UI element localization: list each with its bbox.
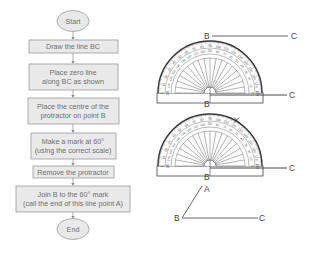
- end-terminal-label: End: [67, 225, 80, 234]
- arrowhead-icon: [71, 37, 74, 40]
- flow-step-text: protractor on point B: [40, 111, 105, 120]
- outer-scale-number: 90: [208, 117, 212, 121]
- flow-step-text: Make a mark at 60°: [42, 137, 105, 146]
- outer-scale-number: 0: [161, 92, 165, 94]
- inner-scale-number: 180: [166, 163, 170, 168]
- flowchart: StartDraw the line BCPlace zero linealon…: [16, 11, 130, 240]
- flow-step-text: Remove the protractor: [37, 168, 109, 177]
- label-b: B: [174, 213, 180, 223]
- label-a: A: [204, 184, 210, 194]
- start-terminal-label: Start: [65, 17, 80, 26]
- label-c: C: [289, 163, 295, 173]
- outer-scale-number: 0: [161, 165, 165, 167]
- label-b: B: [204, 99, 210, 109]
- flow-step-text: along BC as shown: [42, 77, 104, 86]
- result-angle-abc: A B C: [174, 184, 265, 223]
- flow-step-text: Place the centre of the: [37, 102, 109, 111]
- arrowhead-icon: [71, 183, 74, 186]
- arrowhead-icon: [71, 61, 74, 64]
- line-ba: [182, 186, 202, 218]
- label-c: C: [259, 213, 265, 223]
- arrowhead-icon: [71, 163, 74, 166]
- protractor-construction-diagram: StartDraw the line BCPlace zero linealon…: [0, 0, 311, 257]
- label-b: B: [204, 31, 210, 41]
- flow-step-text: (using the correct scale): [35, 146, 112, 155]
- inner-scale-number: 90: [208, 49, 212, 53]
- outer-scale-number: 90: [208, 44, 212, 48]
- inner-scale-number: 180: [166, 90, 170, 95]
- arrowhead-icon: [71, 130, 74, 133]
- label-c: C: [291, 31, 297, 41]
- label-b: B: [204, 172, 210, 182]
- protractor-1: 0102030405060708090100110120130140150160…: [157, 41, 287, 103]
- flow-step-text: Place zero line: [49, 68, 96, 77]
- step1-line-bc: B C: [204, 31, 297, 41]
- flow-step-text: Join B to the 60° mark: [38, 190, 109, 199]
- protractor-2: 0102030405060708090100110120130140150160…: [157, 114, 287, 176]
- flow-step-text: (call the end of this line point A): [23, 199, 123, 208]
- arrowhead-icon: [71, 95, 74, 98]
- inner-scale-number: 90: [208, 122, 212, 126]
- flow-step-text: Draw the line BC: [46, 42, 100, 51]
- label-c: C: [289, 90, 295, 100]
